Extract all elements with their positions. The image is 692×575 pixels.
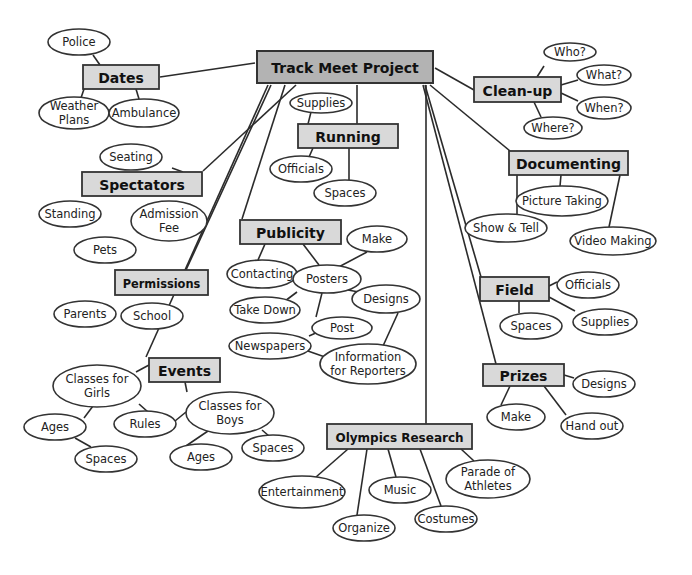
leaf-label: Posters [306,272,348,286]
topic-box-prizes[interactable]: Prizes [483,364,564,386]
leaf-node-girls[interactable]: Classes forGirls [53,365,141,407]
leaf-label: Post [330,321,355,335]
connector-line [560,175,561,186]
connector-line [316,293,322,317]
topic-box-dates[interactable]: Dates [83,65,159,89]
leaf-node-designs_pub[interactable]: Designs [352,285,420,313]
topic-box-documenting[interactable]: Documenting [509,151,628,175]
leaf-label-line: Boys [216,413,244,427]
leaf-node-where[interactable]: Where? [524,117,582,139]
leaf-node-standing[interactable]: Standing [39,201,101,227]
topic-box-publicity[interactable]: Publicity [240,220,341,244]
leaf-node-police[interactable]: Police [48,29,110,55]
topic-box-cleanup[interactable]: Clean-up [474,77,561,102]
topic-box-field[interactable]: Field [480,277,549,301]
topic-label: Spectators [99,177,185,193]
root-box[interactable]: Track Meet Project [257,51,433,83]
leaf-label-line: Parade of [461,465,516,479]
leaf-node-seating[interactable]: Seating [100,144,162,170]
leaf-node-admission[interactable]: AdmissionFee [131,201,207,241]
topic-label: Permissions [123,277,201,291]
connector-line [75,438,91,447]
leaf-node-weather[interactable]: WeatherPlans [39,97,109,129]
leaf-node-field_supplies[interactable]: Supplies [573,309,637,335]
leaf-node-ambulance[interactable]: Ambulance [109,99,179,127]
topic-box-events[interactable]: Events [149,358,220,382]
topic-label: Prizes [500,368,548,384]
leaf-node-picture[interactable]: Picture Taking [516,186,608,216]
leaf-node-parents[interactable]: Parents [54,301,116,327]
leaf-node-spaces_girls[interactable]: Spaces [75,446,137,472]
leaf-node-prize_designs[interactable]: Designs [573,371,635,397]
leaf-label-line: for Reporters [330,364,405,378]
leaf-node-contacting[interactable]: Contacting [227,260,297,288]
leaf-label: Officials [278,162,324,176]
leaf-node-run_supplies[interactable]: Supplies [290,93,352,113]
leaf-node-posters[interactable]: Posters [293,265,361,293]
connector-line [357,449,367,515]
leaf-label: Video Making [574,234,651,248]
topic-box-permissions[interactable]: Permissions [115,270,208,295]
leaf-node-when[interactable]: When? [577,97,631,119]
leaf-node-costumes[interactable]: Costumes [415,506,477,532]
leaf-label: Music [384,483,417,497]
root-label: Track Meet Project [271,60,419,76]
topic-box-running[interactable]: Running [298,124,398,148]
leaf-node-who[interactable]: Who? [544,43,596,61]
leaf-label: Spaces [252,441,293,455]
connector-line [549,282,557,286]
leaf-node-entertainment[interactable]: Entertainment [259,476,345,508]
leaf-label-line: Classes for [199,399,262,413]
leaf-node-run_officials[interactable]: Officials [270,156,332,182]
leaf-node-handout[interactable]: Hand out [561,413,623,439]
leaf-node-field_spaces[interactable]: Spaces [500,313,562,339]
leaf-label: Pets [93,243,117,257]
connector-line [549,297,575,311]
leaf-node-organize[interactable]: Organize [333,515,395,541]
connector-line [561,93,578,101]
leaf-label: Rules [129,417,160,431]
leaf-node-pets[interactable]: Pets [74,237,136,263]
connector-line [309,148,313,157]
leaf-label-line: Classes for [66,372,129,386]
leaf-label-line: Plans [59,113,89,127]
connector-line [136,365,149,372]
leaf-label-line: Girls [84,386,110,400]
leaf-node-info[interactable]: Informationfor Reporters [320,344,416,384]
connector-line [175,412,186,421]
topic-box-olympics[interactable]: Olympics Research [327,424,472,449]
leaf-node-show[interactable]: Show & Tell [465,214,547,242]
leaf-node-takedown[interactable]: Take Down [230,297,300,323]
leaf-node-post[interactable]: Post [312,317,372,339]
leaf-label: School [133,309,171,323]
leaf-node-field_officials[interactable]: Officials [557,272,619,298]
leaf-label-line: Fee [159,221,179,235]
leaf-label: Organize [338,521,390,535]
connector-line [93,55,100,65]
leaf-node-video[interactable]: Video Making [570,227,656,255]
leaf-node-prize_make[interactable]: Make [487,404,545,430]
connector-line [425,85,481,277]
leaf-node-rules[interactable]: Rules [114,411,176,437]
connector-line [185,382,187,392]
connector-line [609,175,620,227]
leaf-node-newspapers[interactable]: Newspapers [229,333,311,359]
connector-line [501,386,510,405]
connector-line [136,89,139,99]
leaf-node-school[interactable]: School [121,303,183,329]
leaf-node-boys[interactable]: Classes forBoys [186,392,274,434]
leaf-node-make[interactable]: Make [347,226,407,252]
topic-box-spectators[interactable]: Spectators [82,172,202,196]
leaf-label: Designs [363,292,409,306]
leaf-label: Make [501,410,531,424]
connector-line [561,80,578,85]
leaf-node-ages_boys[interactable]: Ages [170,444,232,470]
leaf-node-spaces_boys[interactable]: Spaces [242,435,304,461]
leaf-node-music[interactable]: Music [369,477,431,503]
leaf-node-ages_girls[interactable]: Ages [24,414,86,440]
leaf-node-what[interactable]: What? [577,65,631,85]
connector-line [242,85,285,219]
leaf-node-parade[interactable]: Parade ofAthletes [446,460,530,498]
leaf-node-run_spaces[interactable]: Spaces [314,180,376,206]
leaf-label: Newspapers [235,339,306,353]
